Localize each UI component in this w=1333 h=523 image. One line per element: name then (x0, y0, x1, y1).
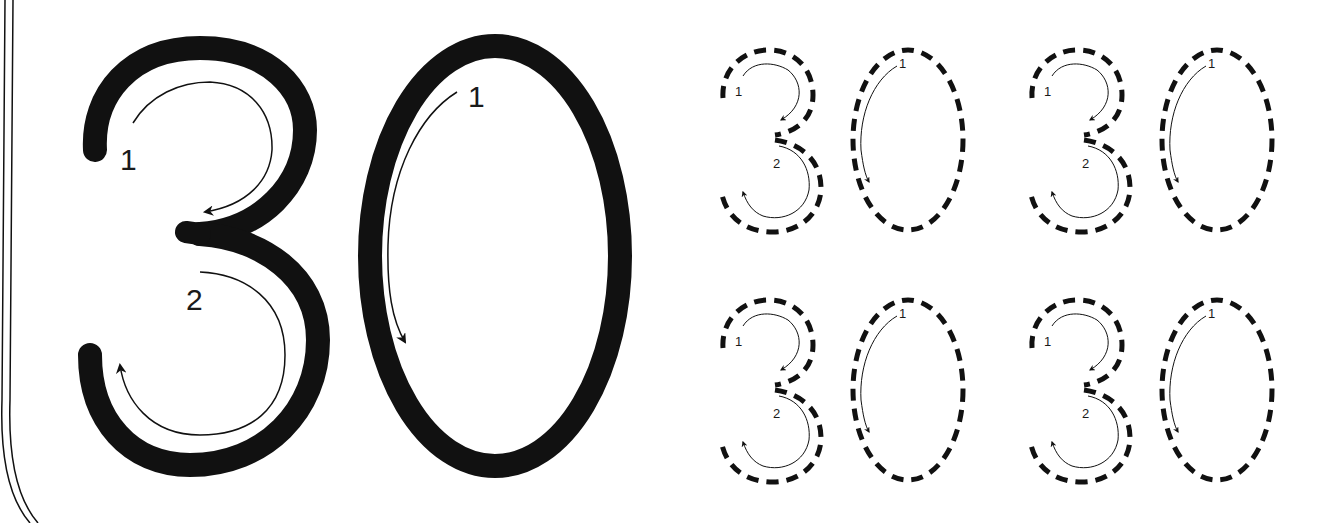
practice-unit-top-left: 1 2 1 (721, 50, 963, 232)
svg-text:1: 1 (1044, 84, 1051, 99)
practice-unit-bottom-left: 1 2 1 (721, 300, 963, 482)
svg-text:1: 1 (1208, 56, 1215, 71)
tracing-worksheet: 1 2 1 1 2 1 1 2 1 1 2 1 (0, 0, 1333, 523)
svg-text:2: 2 (773, 406, 780, 421)
svg-text:1: 1 (735, 334, 742, 349)
svg-text:1: 1 (1044, 334, 1051, 349)
page-border (2, 0, 38, 523)
svg-text:1: 1 (899, 306, 906, 321)
model-digit-zero (370, 46, 620, 466)
svg-text:2: 2 (1082, 156, 1089, 171)
svg-text:2: 2 (773, 156, 780, 171)
model-zero-stroke-label-1: 1 (468, 80, 485, 113)
worksheet-canvas: 1 2 1 1 2 1 1 2 1 1 2 1 (0, 0, 1333, 523)
svg-text:1: 1 (1208, 306, 1215, 321)
svg-text:2: 2 (1082, 406, 1089, 421)
svg-text:1: 1 (735, 84, 742, 99)
practice-unit-top-right: 1 2 1 (1030, 50, 1272, 232)
practice-unit-bottom-right: 1 2 1 (1030, 300, 1272, 482)
model-three-stroke-label-2: 2 (186, 283, 203, 316)
model-three-stroke-label-1: 1 (120, 143, 137, 176)
model-digit-three (90, 48, 318, 465)
svg-text:1: 1 (899, 56, 906, 71)
